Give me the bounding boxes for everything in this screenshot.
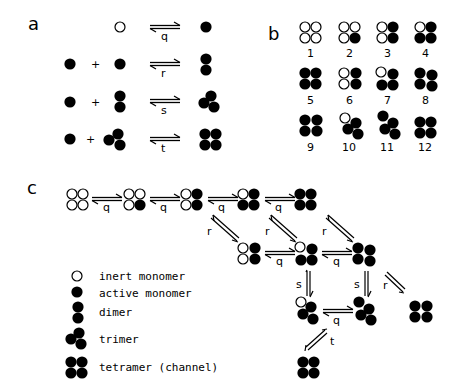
active-monomer-icon (71, 286, 82, 297)
svg-text:6: 6 (346, 94, 353, 107)
state-7: 7 (376, 67, 399, 107)
svg-text:dimer: dimer (99, 306, 132, 319)
svg-text:q: q (160, 201, 167, 214)
state-5: 5 (299, 67, 321, 107)
diagonal-arrow-r: r (265, 215, 297, 242)
state-5 (294, 188, 316, 210)
svg-text:tetramer (channel): tetramer (channel) (99, 361, 218, 374)
diagonal-arrow-t: t (305, 329, 335, 351)
svg-text:trimer: trimer (99, 333, 139, 346)
panel-label-c: c (27, 177, 37, 198)
state-2: 2 (339, 22, 361, 60)
svg-text:r: r (322, 225, 327, 238)
reaction-t: + t (64, 128, 221, 155)
diagonal-arrow-r: r (383, 272, 405, 293)
state-3 (181, 188, 203, 210)
tetramer-icon (199, 128, 221, 150)
panel-label-a: a (28, 13, 39, 34)
panel-a: a q + r + s (28, 13, 222, 155)
svg-text:r: r (383, 279, 388, 292)
svg-text:t: t (330, 335, 335, 348)
state-3: 3 (377, 21, 399, 60)
plus-sign: + (91, 58, 100, 71)
plus-sign: + (91, 96, 100, 109)
legend-item-dimer: dimer (72, 301, 132, 323)
rate-label: t (161, 142, 166, 155)
active-monomer-icon (64, 96, 75, 107)
state-2 (124, 189, 146, 211)
inert-monomer-icon (72, 271, 82, 281)
trimer-icon (103, 128, 125, 150)
state-12: 12 (414, 116, 436, 154)
svg-text:q: q (333, 314, 340, 327)
state-1 (67, 189, 88, 210)
panel-c: c q q q q (27, 177, 433, 379)
state-9: 9 (299, 114, 322, 154)
svg-text:3: 3 (384, 47, 391, 60)
svg-text:1: 1 (307, 47, 314, 60)
legend-item-tetramer: tetramer (channel) (65, 356, 218, 378)
dimer-icon (72, 301, 83, 323)
state-8: 8 (414, 67, 437, 107)
state-4: 4 (414, 21, 436, 60)
legend: inert monomer active monomer dimer trime… (65, 270, 218, 379)
active-monomer-icon (200, 21, 211, 32)
diagonal-arrow-r: r (322, 215, 354, 242)
tetramer-icon (65, 356, 87, 378)
state-10 (296, 297, 319, 325)
reaction-r: + r (64, 53, 211, 80)
state-9 (409, 300, 432, 322)
inert-monomer-icon (115, 22, 125, 32)
svg-text:inert monomer: inert monomer (99, 270, 185, 283)
svg-text:q: q (276, 255, 283, 268)
panel-b: b 1 2 3 4 5 6 (268, 21, 438, 154)
state-11 (353, 296, 376, 325)
state-11: 11 (377, 110, 400, 154)
kinetic-scheme-figure: a q + r + s (0, 0, 456, 391)
svg-text:12: 12 (418, 141, 432, 154)
svg-text:q: q (218, 201, 225, 214)
trimer-icon (65, 327, 86, 349)
panel-label-b: b (268, 23, 279, 44)
reaction-q: q (115, 21, 212, 43)
svg-text:q: q (103, 201, 110, 214)
diagonal-arrow-r: r (207, 215, 239, 242)
svg-text:5: 5 (307, 94, 314, 107)
state-12 (297, 356, 319, 378)
legend-item-inert-monomer: inert monomer (72, 270, 185, 283)
svg-text:r: r (207, 225, 212, 238)
legend-item-active-monomer: active monomer (71, 286, 192, 300)
active-monomer-icon (64, 133, 75, 144)
svg-text:s: s (296, 278, 302, 291)
active-monomer-icon (114, 58, 125, 69)
rate-label: q (161, 30, 168, 43)
state-1: 1 (300, 22, 321, 60)
svg-text:r: r (265, 225, 270, 238)
svg-text:q: q (333, 255, 340, 268)
state-6 (238, 242, 261, 264)
vertical-arrow-s: s (354, 271, 371, 297)
legend-item-trimer: trimer (65, 327, 139, 349)
svg-text:9: 9 (307, 141, 314, 154)
svg-text:7: 7 (384, 94, 391, 107)
rate-label: s (161, 104, 167, 117)
state-8 (352, 242, 375, 266)
dimer-icon (200, 53, 211, 75)
trimer-icon (198, 90, 219, 112)
state-4 (237, 188, 259, 210)
svg-text:q: q (275, 201, 282, 214)
svg-text:10: 10 (342, 141, 356, 154)
vertical-arrow-s: s (296, 270, 313, 297)
active-monomer-icon (64, 58, 75, 69)
plus-sign: + (86, 133, 95, 146)
state-6: 6 (339, 67, 362, 107)
svg-text:4: 4 (422, 47, 429, 60)
svg-text:s: s (354, 278, 360, 291)
reaction-s: + s (64, 90, 219, 117)
state-10: 10 (340, 113, 364, 154)
dimer-icon (114, 90, 125, 112)
state-7 (295, 242, 318, 266)
rate-label: r (161, 67, 166, 80)
svg-text:11: 11 (380, 141, 394, 154)
svg-text:active monomer: active monomer (99, 287, 192, 300)
